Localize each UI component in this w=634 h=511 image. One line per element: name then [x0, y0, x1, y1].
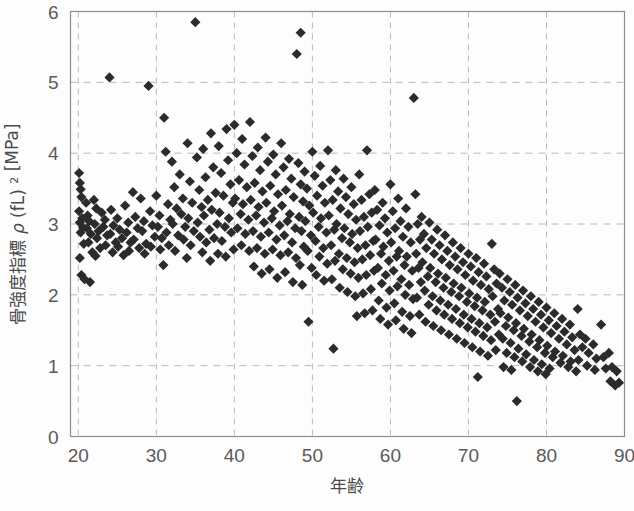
x-tick-label: 30	[146, 445, 167, 466]
y-axis-title-main: 骨強度指標	[8, 240, 28, 325]
chart-canvas: 2030405060708090 0123456 年齢 骨強度指標 ρ (fL)…	[0, 0, 634, 511]
x-tick-label: 80	[536, 445, 557, 466]
y-axis-title-unit: [MPa]	[2, 124, 22, 172]
y-tick-label: 6	[48, 2, 59, 23]
x-tick-label: 60	[380, 445, 401, 466]
y-tick-label: 0	[48, 427, 59, 448]
x-tick-label: 90	[614, 445, 634, 466]
x-tick-label: 40	[224, 445, 245, 466]
y-tick-label: 1	[48, 356, 59, 377]
y-axis-title-superscript: 2	[8, 177, 21, 184]
x-tick-label: 50	[302, 445, 323, 466]
y-axis-title-rho: ρ	[8, 223, 28, 234]
x-tick-label: 70	[458, 445, 479, 466]
y-tick-label: 4	[48, 143, 59, 164]
x-tick-label: 20	[68, 445, 89, 466]
x-axis-title: 年齢	[330, 476, 364, 496]
y-tick-label: 2	[48, 285, 59, 306]
scatter-chart-figure: 2030405060708090 0123456 年齢 骨強度指標 ρ (fL)…	[0, 0, 634, 511]
y-axis-title-paren: (fL)	[8, 189, 28, 218]
y-tick-label: 3	[48, 214, 59, 235]
y-tick-label: 5	[48, 72, 59, 93]
